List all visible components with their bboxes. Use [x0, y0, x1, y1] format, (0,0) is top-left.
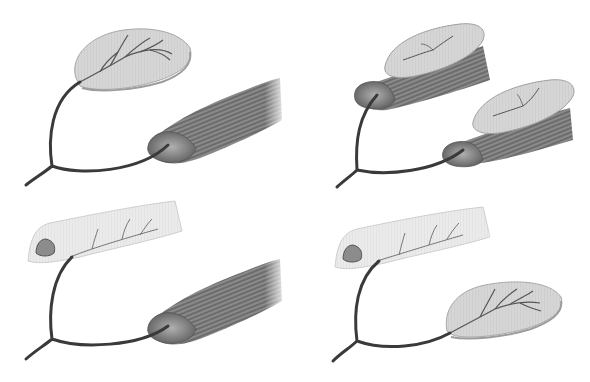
vascular-pedicle: [333, 261, 450, 361]
panel-two-musculocutaneous-flaps: [295, 0, 590, 191]
bone-flap: [28, 197, 190, 263]
muscle-flap: [148, 257, 285, 352]
vascular-pedicle: [26, 82, 168, 185]
flap-diagram-figure: [0, 0, 590, 382]
bone-flap: [335, 203, 495, 269]
muscle-flap: [148, 76, 285, 171]
panel-bone-and-skin-flaps: [295, 191, 590, 382]
vascular-pedicle: [337, 95, 463, 187]
skin-flap: [446, 282, 561, 339]
panel-skin-and-muscle-flaps: [0, 0, 295, 191]
panel-bone-and-muscle-flaps: [0, 191, 295, 382]
musculocutaneous-flap-lower: [443, 80, 575, 167]
vascular-pedicle: [26, 257, 168, 359]
